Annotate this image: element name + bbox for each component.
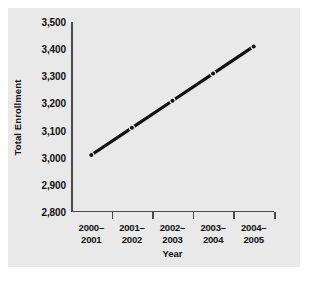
chart-figure: Total Enrollment 2,8002,9003,0003,1003,2… [0, 0, 313, 284]
y-tick-label: 3,000 [28, 152, 66, 163]
data-point-marker [211, 72, 215, 76]
x-tick-label-line: 2002– [160, 222, 185, 234]
y-tick-label: 3,400 [28, 44, 66, 55]
plot-area [71, 22, 274, 212]
x-tick-mark [193, 212, 195, 219]
x-tick-mark [112, 212, 114, 219]
x-tick-label: 2000–2001 [79, 222, 104, 245]
x-tick-mark [152, 212, 154, 219]
y-axis-tick-labels: 2,8002,9003,0003,1003,2003,3003,4003,500 [26, 0, 66, 284]
x-tick-label-line: 2004 [200, 234, 225, 246]
y-tick-label: 2,900 [28, 179, 66, 190]
x-tick-label: 2004–2005 [241, 222, 266, 245]
x-tick-label-line: 2003– [200, 222, 225, 234]
x-tick-label-line: 2004– [241, 222, 266, 234]
x-tick-label: 2003–2004 [200, 222, 225, 245]
x-tick-mark [274, 212, 276, 219]
y-tick-label: 3,500 [28, 17, 66, 28]
y-tick-label: 3,300 [28, 71, 66, 82]
y-axis-title-text: Total Enrollment [13, 79, 24, 155]
y-tick-label: 3,200 [28, 98, 66, 109]
y-tick-label: 2,800 [28, 207, 66, 218]
data-point-marker [89, 153, 93, 157]
x-tick-label-line: 2001 [79, 234, 104, 246]
data-point-marker [171, 99, 175, 103]
enrollment-line-series [71, 22, 274, 212]
x-tick-label: 2002–2003 [160, 222, 185, 245]
x-tick-label-line: 2005 [241, 234, 266, 246]
y-tick-label: 3,100 [28, 125, 66, 136]
x-tick-label-line: 2002 [119, 234, 144, 246]
x-tick-label-line: 2001– [119, 222, 144, 234]
y-axis-title: Total Enrollment [10, 62, 26, 172]
x-axis-title: Year [71, 248, 274, 259]
x-tick-mark [233, 212, 235, 219]
x-tick-label-line: 2003 [160, 234, 185, 246]
x-tick-label-line: 2000– [79, 222, 104, 234]
x-tick-label: 2001–2002 [119, 222, 144, 245]
data-point-marker [130, 126, 134, 130]
data-point-marker [252, 44, 256, 48]
